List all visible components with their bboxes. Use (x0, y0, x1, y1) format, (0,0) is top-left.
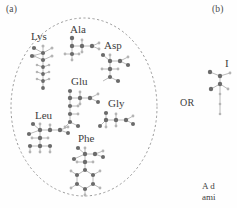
molecule-leu (26, 122, 74, 154)
or-connector-text: OR (180, 97, 195, 108)
amino-acid-label-lys: Lys (31, 31, 47, 42)
molecule-asp (98, 53, 138, 87)
amino-acid-label-leu: Leu (35, 110, 52, 121)
caption-line-2: ami (202, 192, 216, 203)
panel-b-molecule: I (206, 60, 237, 118)
panel-b-chain-icon (206, 60, 237, 118)
amino-acid-label-glu: Glu (71, 76, 88, 87)
amino-acid-label-asp: Asp (104, 40, 122, 51)
molecule-lys (28, 44, 66, 92)
figure-caption: A d ami (202, 181, 216, 203)
amino-acid-label-gly: Gly (108, 98, 125, 109)
panel-a-label: (a) (6, 4, 17, 14)
panel-b-partial-letter: I (225, 57, 229, 69)
figure-container: (a) (b) Lys (0, 0, 237, 208)
amino-acid-label-phe: Phe (78, 133, 95, 144)
molecule-phe (71, 146, 113, 196)
caption-line-1: A d (202, 181, 216, 192)
panel-b-label: (b) (212, 4, 224, 14)
amino-acid-label-ala: Ala (70, 24, 86, 35)
molecule-gly (98, 111, 136, 133)
